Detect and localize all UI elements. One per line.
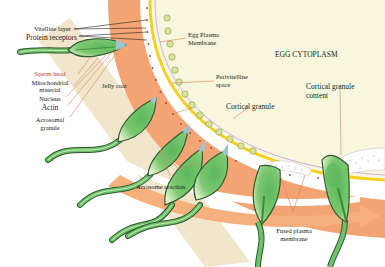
label-fused-plasma-membrane-line2: membrane [274, 235, 314, 242]
label-cortical-granule-content-line2: content [306, 92, 328, 99]
label-actin: Actin [30, 104, 70, 111]
label-vitelline-layer: Vitelline layer [34, 25, 71, 32]
label-acrosome-reaction: Acrosome reaction [136, 183, 185, 190]
label-perivitelline-line1: Perivitelline [216, 73, 248, 80]
label-mitochondrial-line2: material [26, 86, 74, 93]
label-egg-plasma-membrane-line2: Membrane [188, 39, 216, 46]
label-egg-plasma-membrane-line1: Egg Plasma [188, 31, 219, 38]
label-jelly-coat: Jelly coat [102, 82, 127, 89]
label-acrosomal-line1: Acrosomal [28, 116, 72, 123]
label-egg-cytoplasm: EGG CYTOPLASM [275, 51, 338, 58]
label-fused-plasma-membrane-line1: Fused plasma [274, 227, 314, 234]
label-sperm-head: Sperm head [30, 70, 70, 77]
label-nucleus: Nucleus [30, 95, 70, 102]
label-cortical-granule-content-line1: Cortical granule [306, 83, 355, 90]
label-perivitelline-line2: space [216, 81, 230, 88]
label-protein-receptors: Protein receptors [26, 34, 77, 41]
fertilization-diagram: Vitelline layer Protein receptors Egg Pl… [0, 0, 385, 267]
label-acrosomal-line2: granule [28, 124, 72, 131]
label-mitochondrial-line1: Mitochondrial [26, 79, 74, 86]
label-cortical-granule: Cortical granule [226, 103, 275, 110]
